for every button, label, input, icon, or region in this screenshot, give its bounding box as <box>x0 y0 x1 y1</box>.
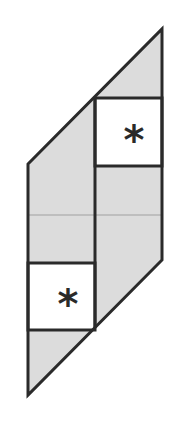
lower-asterisk-icon: * <box>58 281 79 327</box>
upper-asterisk-icon: * <box>124 117 145 163</box>
parallelogram-diagram: * * <box>0 0 176 421</box>
